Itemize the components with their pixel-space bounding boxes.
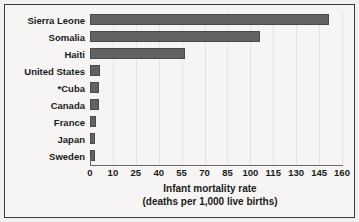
x-axis-title: Infant mortality rate (deaths per 1,000 … (65, 182, 355, 208)
x-axis-title-line-2: (deaths per 1,000 live births) (65, 195, 355, 208)
x-axis-origin-tick (90, 158, 91, 166)
category-label: France (13, 114, 88, 131)
bar-row (90, 97, 342, 114)
chart-frame-border: Sierra LeoneSomaliaHaitiUnited States*Cu… (4, 4, 355, 218)
bar (90, 65, 100, 76)
bar-row (90, 12, 342, 29)
chart-figure: Sierra LeoneSomaliaHaitiUnited States*Cu… (0, 0, 359, 222)
x-tick-label: 130 (288, 167, 304, 178)
category-label: Canada (13, 97, 88, 114)
x-tick-label: 115 (266, 167, 281, 178)
x-tick-label: 40 (153, 167, 164, 178)
plot-area (90, 12, 342, 165)
x-tick-label: 100 (242, 167, 258, 178)
category-label: Sierra Leone (13, 12, 88, 29)
bar-row (90, 148, 342, 165)
bar (90, 31, 260, 42)
bar-row (90, 80, 342, 97)
bar-row (90, 131, 342, 148)
x-tick-label: 55 (176, 167, 187, 178)
category-label: United States (13, 63, 88, 80)
bar (90, 116, 96, 127)
bar (90, 99, 99, 110)
x-tick-label: 145 (311, 167, 327, 178)
bar (90, 82, 99, 93)
x-tick-label: 25 (131, 167, 142, 178)
x-axis-tick-labels: 0102540557085100115130145160 (90, 167, 342, 180)
x-tick-label: 70 (199, 167, 210, 178)
category-label: *Cuba (13, 80, 88, 97)
x-tick-label: 160 (334, 167, 350, 178)
bar-row (90, 63, 342, 80)
bar (90, 14, 329, 25)
x-tick-label: 85 (222, 167, 233, 178)
bars-layer (90, 12, 342, 165)
category-label: Somalia (13, 29, 88, 46)
bar-row (90, 46, 342, 63)
gridline (342, 12, 343, 165)
category-label: Haiti (13, 46, 88, 63)
bar (90, 133, 95, 144)
x-tick-label: 10 (108, 167, 119, 178)
category-axis-labels: Sierra LeoneSomaliaHaitiUnited States*Cu… (13, 12, 88, 165)
x-axis-line (90, 165, 343, 166)
bar-row (90, 114, 342, 131)
bar (90, 48, 185, 59)
bar-row (90, 29, 342, 46)
category-label: Japan (13, 131, 88, 148)
x-axis-title-line-1: Infant mortality rate (65, 182, 355, 195)
category-label: Sweden (13, 148, 88, 165)
x-tick-label: 0 (87, 167, 92, 178)
